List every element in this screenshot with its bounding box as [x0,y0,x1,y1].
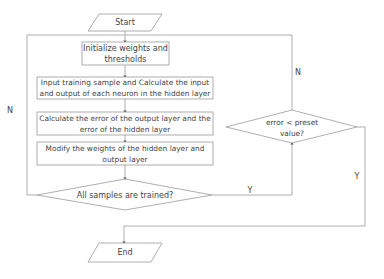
error-check-label-line1: error < preset [266,117,318,128]
calc-error-label: Calculate the error of the output layer … [37,112,213,135]
all-trained-label: All samples are trained? [60,187,190,203]
end-label: End [92,244,158,261]
modify-label-line1: Modify the weights of the hidden layer a… [46,143,205,154]
calc-error-label-line1: Calculate the error of the output layer … [39,113,211,124]
init-label-line2: thresholds [105,54,147,65]
input-label: Input training sample and Calculate the … [37,77,213,99]
edge-label-error-no: N [293,66,303,78]
start-label: Start [92,14,158,31]
input-label-line2: and output of each neuron in the hidden … [40,88,211,99]
modify-label: Modify the weights of the hidden layer a… [37,142,213,165]
edge-label-all-trained-no: N [5,104,15,116]
flowchart-canvas [0,0,384,279]
error-check-label-line2: value? [280,128,304,139]
input-label-line1: Input training sample and Calculate the … [41,77,209,88]
init-label: Initialize weights and thresholds [82,42,169,65]
init-label-line1: Initialize weights and [83,43,168,54]
calc-error-label-line2: error of the hidden layer [80,124,170,135]
error-check-label: error < preset value? [250,116,334,139]
modify-label-line2: output layer [102,154,147,165]
edge-label-all-trained-yes: Y [245,184,255,196]
edge-label-error-yes: Y [352,170,362,182]
